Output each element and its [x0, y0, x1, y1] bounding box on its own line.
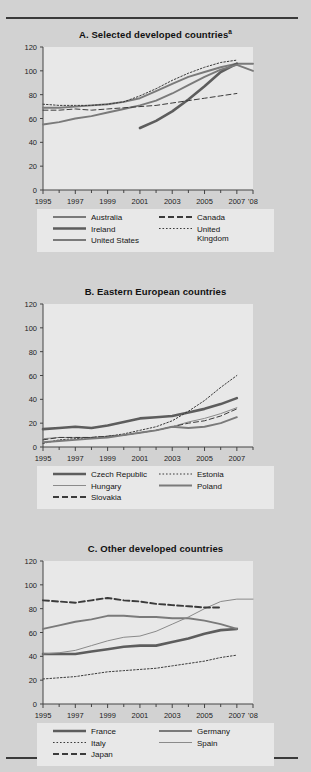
- svg-text:120: 120: [24, 557, 37, 566]
- panel-a-plot: 0204060801001201995199719992001200320052…: [0, 41, 311, 206]
- svg-text:40: 40: [29, 395, 37, 404]
- panel-c-title: C. Other developed countries: [0, 542, 311, 555]
- svg-text:2005: 2005: [196, 454, 213, 463]
- legend-label-slovakia: Slovakia: [91, 493, 122, 502]
- legend-label-canada: Canada: [197, 213, 226, 222]
- panel-b-plot: 0204060801001201995199719992001200320052…: [0, 298, 311, 463]
- top-rule: [6, 17, 298, 19]
- svg-text:100: 100: [24, 581, 37, 590]
- svg-text:2005: 2005: [196, 711, 213, 720]
- panel-a-legend-svg: AustraliaIrelandUnited StatesCanadaUnite…: [37, 209, 274, 252]
- panel-a-title: A. Selected developed countriesa: [0, 28, 311, 41]
- svg-text:100: 100: [24, 324, 37, 333]
- panel-c-title-text: C. Other developed countries: [88, 543, 223, 554]
- svg-text:60: 60: [29, 629, 37, 638]
- svg-text:80: 80: [29, 605, 37, 614]
- svg-text:1995: 1995: [35, 711, 52, 720]
- svg-text:2003: 2003: [164, 454, 181, 463]
- svg-text:1997: 1997: [67, 454, 84, 463]
- svg-text:80: 80: [29, 91, 37, 100]
- panel-c: C. Other developed countries 02040608010…: [0, 542, 311, 766]
- panel-b-title-text: B. Eastern European countries: [85, 286, 227, 297]
- legend-label-poland: Poland: [197, 482, 222, 491]
- legend-label-france: France: [91, 727, 116, 736]
- legend-label-germany: Germany: [197, 727, 230, 736]
- panel-a-legend: AustraliaIrelandUnited StatesCanadaUnite…: [37, 209, 274, 252]
- panel-a: A. Selected developed countriesa 0204060…: [0, 28, 311, 252]
- legend-label-spain: Spain: [197, 739, 217, 748]
- svg-text:0: 0: [33, 700, 37, 709]
- panel-c-chart-svg: 0204060801001201995199719992001200320052…: [0, 555, 311, 720]
- legend-label-hungary: Hungary: [91, 482, 121, 491]
- svg-text:2001: 2001: [132, 711, 149, 720]
- svg-text:2001: 2001: [132, 454, 149, 463]
- panel-a-chart-svg: 0204060801001201995199719992001200320052…: [0, 41, 311, 206]
- svg-text:1997: 1997: [67, 711, 84, 720]
- svg-text:2007: 2007: [229, 711, 246, 720]
- svg-text:2003: 2003: [164, 711, 181, 720]
- legend-label-australia: Australia: [91, 213, 123, 222]
- panel-b-legend: Czech RepublicHungarySlovakiaEstoniaPola…: [37, 466, 274, 509]
- svg-text:1995: 1995: [35, 197, 52, 206]
- panel-c-legend-svg: FranceItalyJapanGermanySpain: [37, 723, 274, 766]
- svg-text:'08: '08: [248, 711, 258, 720]
- svg-text:0: 0: [33, 186, 37, 195]
- svg-text:'08: '08: [248, 197, 258, 206]
- svg-text:40: 40: [29, 138, 37, 147]
- svg-text:60: 60: [29, 115, 37, 124]
- panel-a-title-text: A. Selected developed countries: [79, 29, 228, 40]
- figure-page: A. Selected developed countriesa 0204060…: [0, 0, 311, 772]
- svg-text:2007: 2007: [229, 454, 246, 463]
- svg-text:2001: 2001: [132, 197, 149, 206]
- panel-b-title: B. Eastern European countries: [0, 285, 311, 298]
- legend-label-ireland: Ireland: [91, 225, 115, 234]
- panel-c-plot: 0204060801001201995199719992001200320052…: [0, 555, 311, 720]
- svg-text:2003: 2003: [164, 197, 181, 206]
- svg-text:2005: 2005: [196, 197, 213, 206]
- legend-label-estonia: Estonia: [197, 470, 224, 479]
- legend-label-italy: Italy: [91, 739, 106, 748]
- panel-b: B. Eastern European countries 0204060801…: [0, 285, 311, 509]
- svg-text:40: 40: [29, 652, 37, 661]
- svg-text:80: 80: [29, 348, 37, 357]
- svg-text:20: 20: [29, 162, 37, 171]
- svg-text:1999: 1999: [99, 454, 116, 463]
- svg-text:United: United: [197, 225, 220, 234]
- svg-text:100: 100: [24, 67, 37, 76]
- svg-text:1997: 1997: [67, 197, 84, 206]
- panel-c-legend: FranceItalyJapanGermanySpain: [37, 723, 274, 766]
- svg-text:2007: 2007: [229, 197, 246, 206]
- svg-text:20: 20: [29, 676, 37, 685]
- legend-label-united-states: United States: [91, 236, 139, 245]
- svg-text:1999: 1999: [99, 197, 116, 206]
- svg-text:Kingdom: Kingdom: [197, 234, 229, 243]
- svg-text:20: 20: [29, 419, 37, 428]
- panel-b-legend-svg: Czech RepublicHungarySlovakiaEstoniaPola…: [37, 466, 274, 509]
- panel-a-title-superscript: a: [228, 28, 232, 35]
- svg-text:120: 120: [24, 300, 37, 309]
- legend-label-japan: Japan: [91, 750, 113, 759]
- legend-label-czech-republic: Czech Republic: [91, 470, 147, 479]
- svg-text:1995: 1995: [35, 454, 52, 463]
- svg-text:0: 0: [33, 443, 37, 452]
- svg-text:1999: 1999: [99, 711, 116, 720]
- svg-text:60: 60: [29, 372, 37, 381]
- panel-b-chart-svg: 0204060801001201995199719992001200320052…: [0, 298, 311, 463]
- svg-text:120: 120: [24, 43, 37, 52]
